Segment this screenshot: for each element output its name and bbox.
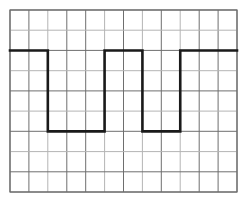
waveform-plot — [0, 0, 247, 202]
square-wave-chart — [0, 0, 247, 202]
